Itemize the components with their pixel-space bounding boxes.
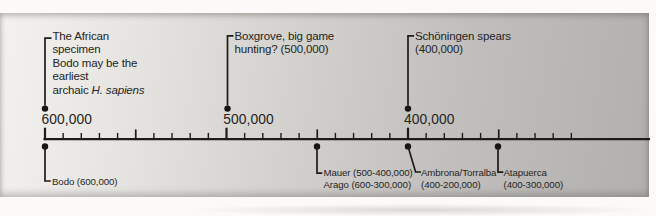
event-text-line: Bodo may be the [53,57,145,70]
event-text-line: Ambrona/Torralba [421,167,496,179]
event-label-boxgrove: Boxgrove, big game hunting? (500,000) [235,30,335,57]
event-text-line: Arago (600-300,000) [324,179,413,191]
event-text-line: (400,000) [415,43,511,56]
event-text-normal: archaic [53,84,92,96]
event-text-line: hunting? (500,000) [235,43,335,56]
event-text-line: (400-200,000) [421,179,496,191]
event-label-mauer-arago: Mauer (500-400,000) Arago (600-300,000) [324,167,413,192]
event-text-line: Boxgrove, big game [235,30,335,43]
axis-label-500000: 500,000 [223,112,274,127]
event-label-bodo: Bodo (600,000) [52,176,117,187]
event-text-line: Atapuerca [504,167,564,179]
connector-bodo [45,147,51,181]
event-text-line: Mauer (500-400,000) [324,167,413,179]
marker-dot-500000-above [224,105,230,111]
connector-mauer [317,147,322,173]
connector-schoningen [408,36,414,106]
marker-dot-400000-above [405,105,411,111]
event-text-line: archaic H. sapiens [53,84,145,97]
event-label-ambrona-torralba: Ambrona/Torralba (400-200,000) [421,167,496,192]
species-name-italic: H. sapiens [92,84,145,96]
event-text-line: Bodo (600,000) [52,176,117,187]
event-label-atapuerca: Atapuerca (400-300,000) [504,167,564,192]
marker-dot-600000-above [42,105,48,111]
connector-bodo-specimen [45,38,52,105]
figure-canvas: The African specimen Bodo may be the ear… [0,0,656,216]
event-label-bodo-specimen: The African specimen Bodo may be the ear… [53,30,145,97]
event-text-line: earliest [53,70,145,83]
event-label-schoningen: Schöningen spears (400,000) [415,30,511,57]
connector-boxgrove [228,36,234,106]
axis-label-600000: 600,000 [42,112,93,127]
event-text-line: specimen [53,43,145,56]
event-text-line: Schöningen spears [415,30,511,43]
connector-atapuerca [498,147,503,172]
event-text-line: The African [53,30,145,43]
axis-label-400000: 400,000 [404,112,455,127]
event-text-line: (400-300,000) [504,179,564,191]
